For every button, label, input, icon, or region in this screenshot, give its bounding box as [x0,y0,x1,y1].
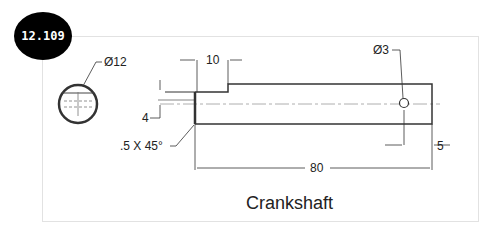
drawing-title: Crankshaft [246,193,333,214]
hole-offset-label: 5 [437,139,444,153]
step-length-label: 10 [206,53,220,67]
hole-diameter-label: Ø3 [373,43,389,57]
step-height-label: 4 [142,111,149,125]
end-view-diameter-label: Ø12 [104,55,127,69]
chamfer-label: .5 X 45° [120,139,163,153]
shaft-side-view [150,50,450,170]
overall-length-label: 80 [310,161,324,175]
end-view [59,62,102,123]
